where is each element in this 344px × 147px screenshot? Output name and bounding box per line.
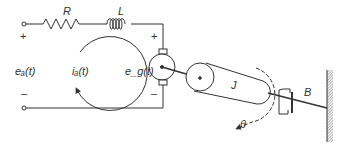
resistor-icon (43, 19, 79, 29)
angle-label: θ (240, 119, 246, 130)
armature-current-label: iₐ(t) (72, 66, 89, 77)
damping-label: B (304, 87, 311, 98)
dc-motor-diagram: R L + – eₐ(t) iₐ(t) e_g(t) + – J B θ (0, 0, 344, 147)
input-terminal-top (22, 22, 26, 26)
resistor-label: R (63, 6, 71, 17)
motor-plus-sign: + (151, 31, 157, 42)
circuit-and-mechanics-drawing (0, 0, 344, 147)
input-voltage-label: eₐ(t) (15, 66, 35, 77)
inductor-icon (107, 19, 125, 30)
inertia-label: J (231, 80, 237, 91)
back-emf-label: e_g(t) (125, 66, 154, 77)
input-minus-sign: – (21, 88, 27, 99)
input-plus-sign: + (20, 31, 26, 42)
inductor-label: L (118, 6, 124, 17)
input-terminal-bottom (22, 106, 26, 110)
ground-wall-icon (327, 70, 333, 142)
motor-minus-sign: – (151, 88, 157, 99)
